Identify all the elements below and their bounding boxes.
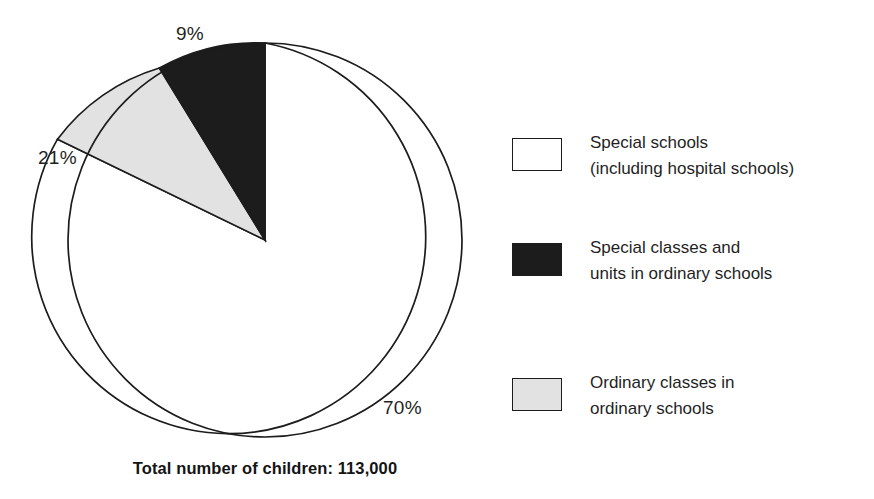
chart-page: 9% 21% 70% Total number of children: 113… bbox=[0, 0, 874, 499]
legend-label-line-1: Special classes and bbox=[590, 235, 772, 261]
pie-svg bbox=[0, 0, 500, 450]
legend-label-line-2: (including hospital schools) bbox=[590, 156, 794, 182]
legend-swatch-black-icon bbox=[512, 243, 562, 276]
legend-label-line-2: ordinary schools bbox=[590, 396, 735, 422]
chart-caption: Total number of children: 113,000 bbox=[0, 459, 530, 478]
pie-label-21-percent: 21% bbox=[38, 147, 77, 169]
legend-swatch-white-icon bbox=[512, 138, 562, 171]
legend-label-special-classes: Special classes and units in ordinary sc… bbox=[590, 235, 772, 287]
legend-label-special-schools: Special schools (including hospital scho… bbox=[590, 130, 794, 182]
legend-label-line-1: Special schools bbox=[590, 130, 794, 156]
pie-label-9-percent: 9% bbox=[176, 23, 204, 45]
legend-label-line-2: units in ordinary schools bbox=[590, 261, 772, 287]
legend-swatch-grey-icon bbox=[512, 378, 562, 411]
pie-chart: 9% 21% 70% bbox=[0, 0, 500, 450]
pie-label-70-percent: 70% bbox=[383, 397, 422, 419]
legend-label-ordinary-classes: Ordinary classes in ordinary schools bbox=[590, 370, 735, 422]
legend-label-line-1: Ordinary classes in bbox=[590, 370, 735, 396]
